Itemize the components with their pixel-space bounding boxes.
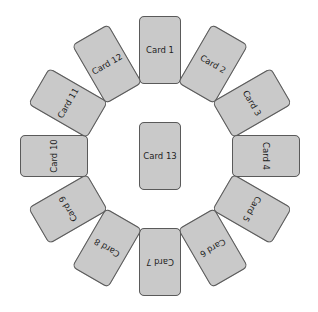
card-label: Card 5 bbox=[240, 194, 263, 223]
card-label: Card 13 bbox=[143, 151, 176, 161]
card-label: Card 8 bbox=[92, 236, 121, 259]
card-4: Card 4 bbox=[232, 135, 300, 177]
card-label: Card 3 bbox=[240, 88, 263, 117]
card-label: Card 2 bbox=[198, 53, 227, 76]
card-label: Card 1 bbox=[146, 45, 174, 55]
card-label: Card 10 bbox=[49, 139, 59, 172]
card-7: Card 7 bbox=[139, 228, 181, 296]
card-label: Card 7 bbox=[146, 257, 174, 267]
card-10: Card 10 bbox=[20, 135, 88, 177]
card-layout-diagram: Card 1 Card 2 Card 3 Card 4 Card 5 Card … bbox=[0, 0, 318, 312]
card-label: Card 12 bbox=[90, 52, 124, 77]
card-label: Card 6 bbox=[198, 236, 227, 259]
card-label: Card 9 bbox=[57, 194, 80, 223]
card-13-center: Card 13 bbox=[139, 122, 181, 190]
card-label: Card 11 bbox=[56, 86, 81, 120]
card-label: Card 4 bbox=[261, 142, 271, 170]
card-1: Card 1 bbox=[139, 16, 181, 84]
